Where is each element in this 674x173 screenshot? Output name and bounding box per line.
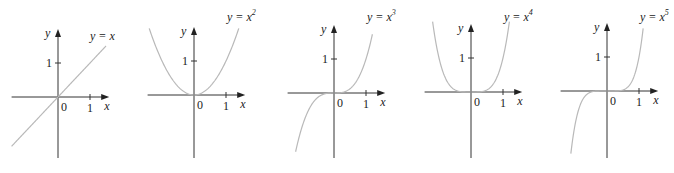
y-axis-label: y: [320, 22, 327, 36]
x-tick-label-1: 1: [500, 96, 506, 110]
curve-label-exponent: 4: [529, 8, 533, 17]
x-axis-label: x: [379, 95, 386, 109]
curve-label: y = x4: [503, 8, 533, 24]
x-tick-label-1: 1: [636, 95, 642, 109]
curve-label: y = x5: [639, 8, 669, 24]
y-tick-label-1: 1: [322, 52, 328, 66]
y-axis-label: y: [457, 21, 464, 35]
panel-1: 011xyy = x: [12, 26, 116, 158]
curve-label-exponent: 5: [665, 8, 669, 17]
curve-label-exponent: 2: [252, 8, 256, 17]
y-axis-arrow-icon: [604, 23, 610, 31]
x-axis-label: x: [652, 93, 659, 107]
x-axis-label: x: [239, 97, 246, 111]
x-tick-label-1: 1: [223, 99, 229, 113]
y-tick-label-1: 1: [595, 50, 601, 64]
x-tick-label-0: 0: [610, 94, 616, 108]
x-axis-label: x: [516, 94, 523, 108]
y-axis-arrow-icon: [468, 24, 474, 32]
x-tick-label-0: 0: [197, 98, 203, 112]
panel-4: 011xyy = x4: [425, 8, 533, 158]
x-tick-label-1: 1: [87, 101, 93, 115]
y-axis-arrow-icon: [191, 27, 197, 35]
panel-2: 011xyy = x2: [148, 8, 256, 158]
curve-label: y = x2: [226, 8, 256, 24]
curve-y-x1: [12, 46, 106, 146]
x-axis-label: x: [103, 99, 110, 113]
curve-label: y = x: [89, 29, 115, 43]
y-axis-label: y: [180, 24, 187, 38]
panel-5: 011xyy = x5: [561, 8, 669, 158]
x-tick-label-1: 1: [363, 97, 369, 111]
y-tick-label-1: 1: [46, 56, 52, 70]
panel-3: 011xyy = x3: [288, 8, 396, 158]
curve-label: y = x3: [366, 8, 396, 24]
power-functions-figure: 011xyy = x011xyy = x2011xyy = x3011xyy =…: [0, 0, 674, 173]
y-axis-arrow-icon: [55, 29, 61, 37]
y-axis-label: y: [44, 26, 51, 40]
x-tick-label-0: 0: [337, 96, 343, 110]
y-tick-label-1: 1: [182, 54, 188, 68]
y-tick-label-1: 1: [459, 51, 465, 65]
x-tick-label-0: 0: [474, 95, 480, 109]
y-axis-arrow-icon: [331, 25, 337, 33]
x-tick-label-0: 0: [61, 100, 67, 114]
y-axis-label: y: [593, 20, 600, 34]
curve-label-exponent: 3: [391, 8, 396, 17]
